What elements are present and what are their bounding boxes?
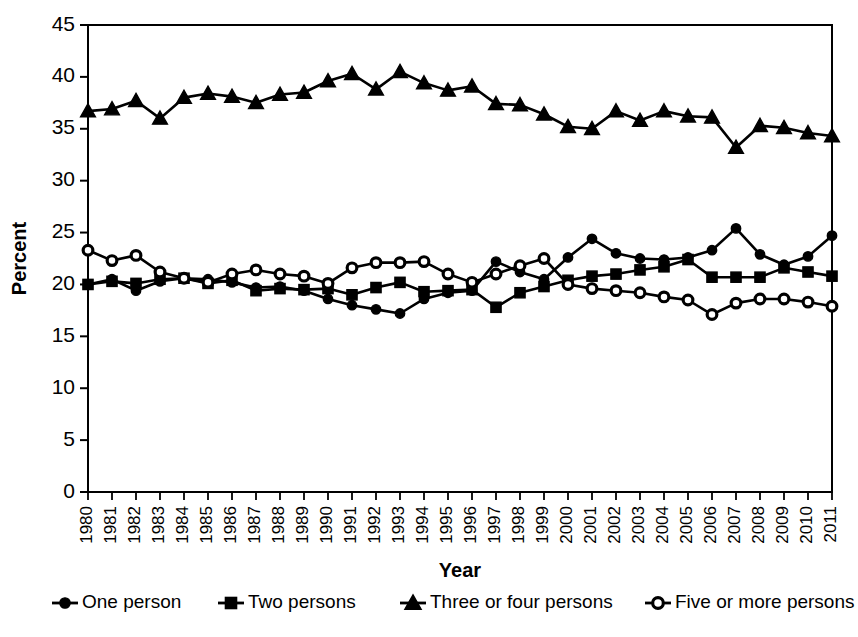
x-tick-label: 1986 — [221, 506, 240, 544]
data-point — [539, 281, 549, 291]
series-2 — [83, 254, 837, 312]
data-point — [779, 263, 789, 273]
data-point — [395, 309, 404, 318]
x-tick-label: 1995 — [437, 506, 456, 544]
legend-marker-1 — [60, 598, 70, 608]
x-tick-label: 1991 — [341, 506, 360, 544]
legend-label-1: One person — [82, 591, 181, 612]
series-3 — [81, 64, 840, 153]
x-tick-label: 2011 — [821, 506, 840, 543]
x-tick-label: 1992 — [365, 506, 384, 544]
series-line-1 — [88, 228, 832, 313]
data-point — [707, 272, 717, 282]
data-point — [515, 261, 525, 271]
x-tick-label: 1998 — [509, 506, 528, 544]
y-tick-label: 5 — [63, 427, 75, 450]
data-point — [345, 66, 360, 79]
data-point — [755, 250, 764, 259]
data-point — [731, 272, 741, 282]
series-4 — [83, 245, 837, 319]
data-point — [251, 265, 261, 275]
x-tick-label: 1994 — [413, 506, 432, 544]
chart-figure: 051015202530354045Percent198019811982198… — [0, 0, 858, 637]
data-point — [371, 258, 381, 268]
data-point — [131, 278, 141, 288]
data-point — [443, 286, 453, 296]
data-point — [803, 297, 813, 307]
x-tick-label: 2005 — [677, 506, 696, 544]
line-chart: 051015202530354045Percent198019811982198… — [0, 0, 858, 637]
data-point — [587, 271, 597, 281]
series-line-3 — [88, 72, 832, 148]
data-point — [203, 278, 213, 288]
x-tick-label: 1988 — [269, 506, 288, 544]
x-tick-label: 1999 — [533, 506, 552, 544]
x-tick-label: 1989 — [293, 506, 312, 544]
data-point — [635, 265, 645, 275]
data-point — [129, 93, 144, 106]
x-tick-label: 1984 — [173, 506, 192, 544]
x-tick-label: 1996 — [461, 506, 480, 544]
data-point — [609, 104, 624, 117]
legend-label-2: Two persons — [248, 591, 356, 612]
data-point — [707, 310, 717, 320]
data-point — [155, 267, 165, 277]
y-tick-label: 15 — [52, 323, 75, 346]
data-point — [803, 252, 812, 261]
data-point — [371, 282, 381, 292]
data-point — [323, 294, 332, 303]
y-tick-label: 0 — [63, 479, 75, 502]
data-point — [251, 286, 261, 296]
data-point — [539, 254, 549, 264]
x-tick-label: 2001 — [581, 506, 600, 544]
data-point — [467, 278, 477, 288]
data-point — [635, 288, 645, 298]
data-point — [83, 245, 93, 255]
y-tick-label: 40 — [52, 63, 75, 86]
data-point — [83, 279, 93, 289]
data-point — [563, 253, 572, 262]
y-tick-label: 35 — [52, 115, 75, 138]
x-tick-label: 2002 — [605, 506, 624, 544]
x-tick-label: 2008 — [749, 506, 768, 544]
series-line-2 — [88, 260, 832, 308]
data-point — [657, 104, 672, 117]
x-tick-label: 1982 — [125, 506, 144, 544]
data-point — [179, 273, 189, 283]
data-point — [347, 263, 357, 273]
y-tick-label: 45 — [52, 12, 75, 35]
data-point — [347, 290, 357, 300]
data-point — [419, 257, 429, 267]
x-tick-label: 2000 — [557, 506, 576, 544]
y-tick-label: 20 — [52, 271, 75, 294]
data-point — [369, 82, 384, 95]
data-point — [731, 298, 741, 308]
data-point — [299, 285, 309, 295]
data-point — [611, 286, 621, 296]
data-point — [611, 249, 620, 258]
chart-legend: One personTwo personsThree or four perso… — [52, 591, 855, 612]
data-point — [491, 269, 501, 279]
data-point — [395, 277, 405, 287]
legend-marker-4 — [653, 598, 664, 609]
data-point — [275, 283, 285, 293]
x-tick-label: 2003 — [629, 506, 648, 544]
data-point — [827, 271, 837, 281]
data-point — [659, 292, 669, 302]
data-point — [563, 280, 573, 290]
data-point — [827, 231, 836, 240]
data-point — [417, 76, 432, 89]
data-point — [659, 262, 669, 272]
data-point — [611, 269, 621, 279]
legend-label-3: Three or four persons — [430, 591, 613, 612]
y-tick-label: 30 — [52, 167, 75, 190]
data-point — [755, 294, 765, 304]
data-point — [755, 272, 765, 282]
data-point — [299, 271, 309, 281]
x-tick-label: 2007 — [725, 506, 744, 544]
x-tick-label: 1980 — [77, 506, 96, 544]
data-point — [395, 258, 405, 268]
x-tick-label: 1987 — [245, 506, 264, 544]
data-point — [419, 287, 429, 297]
data-point — [393, 64, 408, 77]
